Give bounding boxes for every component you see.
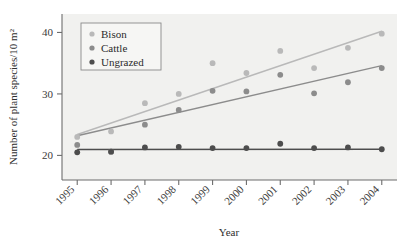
legend-label-bison: Bison [101,28,127,40]
data-point [379,146,385,152]
data-point [176,144,182,150]
figure: 203040 199519961997199819992000200120022… [0,0,415,244]
data-point [379,31,385,37]
data-point [277,48,283,54]
data-point [142,100,148,106]
data-point [244,70,250,76]
data-point [108,129,114,135]
data-point [379,65,385,71]
data-point [74,149,80,155]
data-point [311,65,317,71]
data-point [311,145,317,151]
legend-label-cattle: Cattle [101,42,127,54]
data-point [74,142,80,148]
y-tick-label: 30 [42,88,54,100]
data-point [277,141,283,147]
legend-marker-cattle [89,45,94,50]
data-point [176,107,182,113]
data-point [345,145,351,151]
data-point [311,90,317,96]
data-point [210,145,216,151]
data-point [142,122,148,128]
legend-marker-bison [89,31,94,36]
data-point [345,79,351,85]
legend-label-ungrazed: Ungrazed [101,56,144,68]
legend-marker-ungrazed [89,59,94,64]
data-point [74,134,80,140]
y-axis-title: Number of plant species/10 m² [7,28,19,165]
y-tick-label: 40 [42,26,54,38]
data-point [244,89,250,95]
scatter-chart: 203040 199519961997199819992000200120022… [0,0,415,244]
x-axis-title: Year [219,226,240,238]
data-point [210,60,216,66]
legend: BisonCattleUngrazed [81,23,161,70]
data-point [176,91,182,97]
y-tick-label: 20 [42,149,54,161]
data-point [108,149,114,155]
data-point [244,145,250,151]
data-point [142,145,148,151]
data-point [345,45,351,51]
data-point [210,88,216,94]
data-point [277,72,283,78]
